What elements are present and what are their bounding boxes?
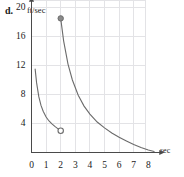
x-tick-label: 0 [26,160,38,170]
gridlines [32,0,146,152]
x-axis-arrow [159,150,164,155]
y-tick-label: 20 [10,2,26,12]
x-tick-label: 2 [55,160,67,170]
y-tick-label: 8 [10,89,26,99]
x-tick-label: 5 [99,160,111,170]
curve-branch-1 [35,69,61,131]
y-axis-arrow [29,0,34,2]
y-tick-label: 12 [10,60,26,70]
x-tick-label: 7 [128,160,140,170]
x-tick-label: 3 [69,160,81,170]
marker-closed-point [58,16,63,21]
marker-open-point [58,128,63,133]
x-tick-label: 6 [113,160,125,170]
curve-branch-2 [61,18,154,151]
x-tick-label: 4 [84,160,96,170]
y-tick-label: 4 [10,118,26,128]
curves [35,18,154,151]
x-tick-label: 8 [142,160,154,170]
y-tick-label: 16 [10,31,26,41]
x-tick-label: 1 [40,160,52,170]
plot-area [0,0,184,177]
axes [29,0,165,155]
figure-container: d. ft/sec sec 48121620 012345678 [0,0,184,177]
